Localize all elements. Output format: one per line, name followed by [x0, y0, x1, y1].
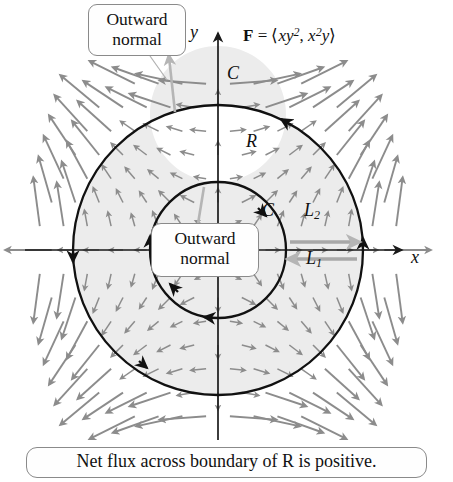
x-axis-label: x	[411, 247, 419, 268]
field-vector	[361, 298, 374, 338]
formula-comma: ,	[300, 26, 304, 45]
field-vector	[62, 162, 75, 202]
field-vector	[361, 162, 374, 202]
field-vector	[384, 298, 397, 343]
field-vector	[337, 122, 364, 155]
field-vector	[84, 81, 123, 107]
field-vector	[230, 177, 241, 179]
field-vector	[121, 369, 135, 379]
formula-close-angle: ⟩	[329, 26, 336, 45]
vector-field-formula: F = ⟨xy2, x2y⟩	[243, 25, 336, 46]
field-vector	[313, 81, 352, 107]
field-vector	[384, 157, 397, 202]
field-vector	[73, 122, 100, 155]
figure-caption: Net flux across boundary of R is positiv…	[26, 447, 427, 478]
formula-equals-sign: =	[258, 26, 268, 45]
field-vector	[33, 178, 39, 226]
outer-curve-label: C	[227, 63, 239, 84]
field-vector	[121, 122, 135, 132]
field-vector	[361, 116, 387, 155]
field-vector	[349, 369, 381, 405]
field-vector	[242, 152, 255, 155]
segment-lower-subscript: 1	[316, 256, 322, 270]
field-vector	[168, 127, 183, 131]
field-vector	[313, 393, 352, 419]
field-vector	[49, 116, 75, 155]
field-vector	[44, 136, 64, 178]
callout-line-1: Outward	[89, 10, 185, 30]
y-axis-label: y	[190, 22, 198, 43]
segment-upper-base: L	[304, 200, 314, 220]
figure-page: Outward normal Outward normal Net flux a…	[0, 0, 453, 482]
outward-normal-callout-outer: Outward normal	[88, 4, 186, 56]
formula-term1: xy	[278, 26, 293, 45]
field-vector	[130, 393, 170, 406]
outward-normal-callout-inner: Outward normal	[151, 223, 259, 277]
field-vector	[181, 152, 194, 155]
field-vector	[396, 178, 402, 226]
segment-upper-subscript: 2	[314, 208, 320, 222]
inner-orientation-arrow-4	[204, 317, 213, 318]
field-vector	[349, 96, 381, 132]
field-vector	[55, 96, 87, 132]
field-vector	[372, 136, 392, 178]
field-vector	[337, 345, 364, 378]
field-vector	[67, 321, 87, 358]
field-vector	[160, 416, 206, 419]
field-vector	[372, 274, 379, 317]
field-vector	[361, 345, 387, 384]
field-vector	[396, 274, 402, 322]
field-vector	[33, 274, 39, 322]
region-label: R	[246, 131, 257, 152]
field-vector	[84, 393, 123, 419]
field-vector	[39, 298, 52, 343]
field-vector	[55, 369, 87, 405]
field-vector	[195, 177, 206, 179]
field-vector	[39, 157, 52, 202]
field-vector	[57, 274, 64, 317]
callout-inner-line-2: normal	[152, 249, 258, 269]
field-vector	[44, 321, 64, 363]
formula-bold-F: F	[243, 26, 253, 45]
field-vector	[372, 183, 379, 226]
field-vector	[57, 183, 64, 226]
inner-curve-label: C	[262, 200, 274, 221]
callout-inner-line-1: Outward	[152, 229, 258, 249]
callout-line-2: normal	[89, 30, 185, 50]
segment-lower-label: L1	[306, 248, 322, 271]
field-vector	[62, 298, 75, 338]
field-vector	[301, 122, 315, 132]
field-vector	[230, 130, 245, 132]
field-vector	[266, 393, 306, 406]
formula-term2-x: x	[308, 26, 316, 45]
segment-upper-label: L2	[304, 200, 320, 223]
field-vector	[73, 345, 100, 378]
segment-lower-base: L	[306, 248, 316, 268]
field-vector	[372, 321, 392, 363]
field-vector	[191, 130, 206, 132]
caption-text: Net flux across boundary of R is positiv…	[77, 451, 377, 471]
field-vector	[301, 369, 315, 379]
